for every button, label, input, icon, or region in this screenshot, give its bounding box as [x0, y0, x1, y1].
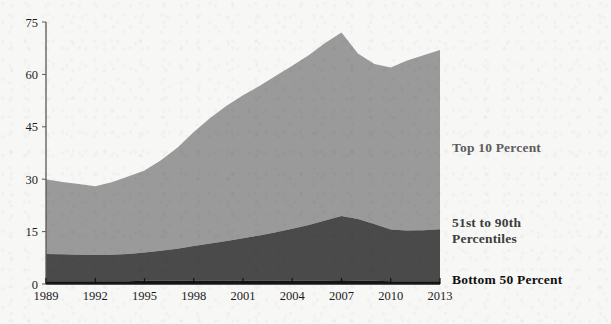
x-axis-tick-label: 1989: [34, 289, 59, 303]
y-axis-tick-label: 45: [26, 120, 39, 134]
x-axis-tick-label: 1992: [83, 289, 108, 303]
legend-label-51st-to-90th-percentiles: 51st to 90th Percentiles: [452, 215, 521, 247]
x-axis-tick-labels: 198919921995199820012004200720102013: [34, 289, 453, 303]
x-axis-tick-label: 2007: [329, 289, 354, 303]
area-series-group: [46, 32, 440, 284]
x-axis-tick-label: 2004: [280, 289, 306, 303]
x-axis-tick-label: 2013: [428, 289, 453, 303]
x-axis-tick-label: 2010: [378, 289, 403, 303]
y-axis-tick-label: 75: [26, 16, 39, 30]
legend-label-top-10-percent: Top 10 Percent: [452, 140, 541, 156]
x-axis-tick-label: 2001: [231, 289, 256, 303]
x-axis-tick-label: 1998: [181, 289, 206, 303]
area-top-10-percent: [46, 32, 440, 255]
stacked-area-chart-figure: 01530456075 1989199219951998200120042007…: [0, 0, 611, 324]
x-axis-tick-label: 1995: [132, 289, 157, 303]
legend-label-bottom-50-percent: Bottom 50 Percent: [452, 272, 562, 288]
y-axis-tick-label: 30: [26, 173, 39, 187]
y-axis-tick-labels: 01530456075: [26, 16, 39, 292]
y-axis-tick-label: 60: [26, 68, 39, 82]
y-axis-tick-label: 15: [26, 225, 39, 239]
